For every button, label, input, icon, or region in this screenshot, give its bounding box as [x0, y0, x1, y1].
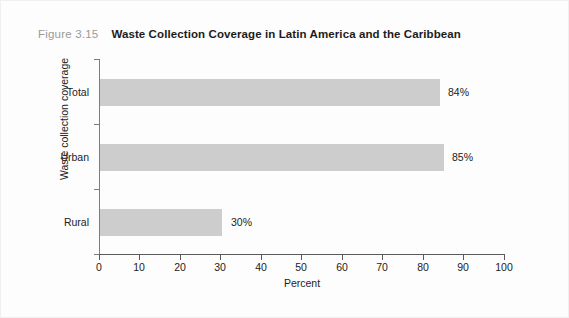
figure-title-row: Figure 3.15Waste Collection Coverage in …: [38, 26, 461, 41]
x-axis-tick: [382, 255, 383, 260]
x-axis-tick-label: 70: [376, 261, 388, 273]
x-axis-tick: [463, 255, 464, 260]
x-axis-tick-label: 0: [96, 261, 102, 273]
bar-urban: [100, 144, 444, 171]
bar-value-label-rural: 30%: [231, 209, 252, 236]
x-axis-tick: [261, 255, 262, 260]
bar-total: [100, 79, 440, 106]
x-axis-tick: [301, 255, 302, 260]
bar-value-label-total: 84%: [448, 79, 469, 106]
x-axis-tick: [220, 255, 221, 260]
x-axis-line: [99, 254, 505, 255]
x-axis-tick-label: 90: [457, 261, 469, 273]
x-axis-tick: [342, 255, 343, 260]
x-axis-tick-label: 100: [495, 261, 513, 273]
x-axis-tick-label: 30: [214, 261, 226, 273]
x-axis-tick-label: 60: [336, 261, 348, 273]
x-axis-tick: [139, 255, 140, 260]
bar-value-label-urban: 85%: [452, 144, 473, 171]
x-axis-tick: [99, 255, 100, 260]
y-axis-tick: [94, 124, 99, 125]
y-axis-tick: [94, 59, 99, 60]
x-axis-tick: [180, 255, 181, 260]
x-axis-title: Percent: [99, 277, 505, 289]
y-axis-title: Waste collection coverage: [58, 29, 70, 209]
x-axis-tick: [504, 255, 505, 260]
x-axis-tick-label: 40: [255, 261, 267, 273]
y-axis-tick: [94, 189, 99, 190]
x-axis-tick-label: 80: [417, 261, 429, 273]
y-axis-category-label-rural: Rural: [29, 209, 89, 236]
x-axis-tick: [423, 255, 424, 260]
x-axis-tick-label: 20: [174, 261, 186, 273]
x-axis-tick-label: 50: [295, 261, 307, 273]
bar-rural: [100, 209, 222, 236]
figure-container: Figure 3.15Waste Collection Coverage in …: [0, 0, 569, 318]
page-title: Waste Collection Coverage in Latin Ameri…: [111, 28, 461, 40]
x-axis-tick-label: 10: [133, 261, 145, 273]
